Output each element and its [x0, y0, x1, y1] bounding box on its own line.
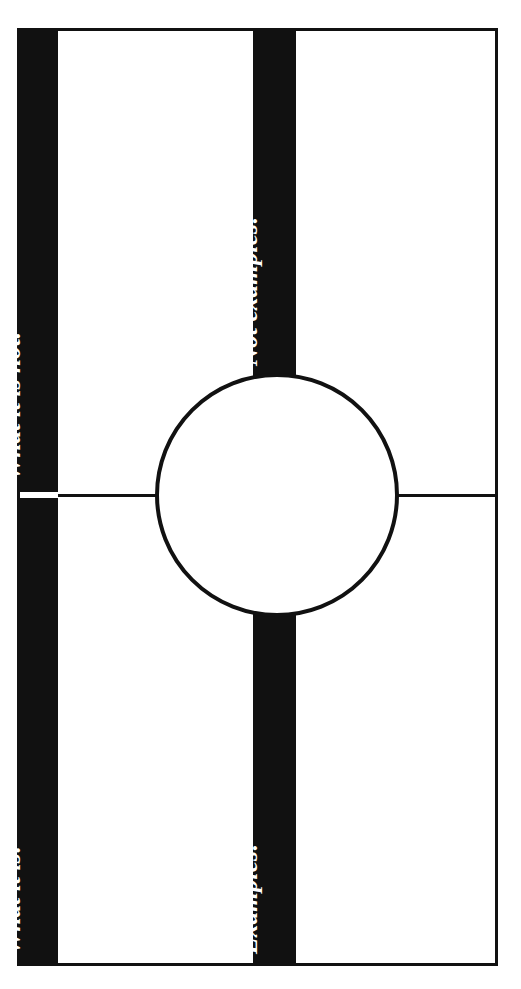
label-examples: Examples:: [253, 842, 261, 954]
label-bar-what-it-is: What it is:: [17, 498, 58, 966]
divider-line-right: [396, 494, 497, 497]
label-what-it-is: What it is:: [17, 845, 24, 954]
divider-line-left: [58, 494, 158, 497]
label-bar-what-it-is-not: What it is not:: [17, 28, 58, 492]
center-term-text: [159, 377, 395, 613]
label-bar-not-examples: Not examples:: [253, 28, 296, 378]
worksheet-page: What it is not: What it is: Not examples…: [0, 0, 521, 989]
label-what-it-is-not: What it is not:: [17, 330, 24, 480]
label-bar-examples: Examples:: [253, 612, 296, 966]
center-term-circle[interactable]: [155, 373, 399, 617]
label-not-examples: Not examples:: [253, 216, 261, 367]
